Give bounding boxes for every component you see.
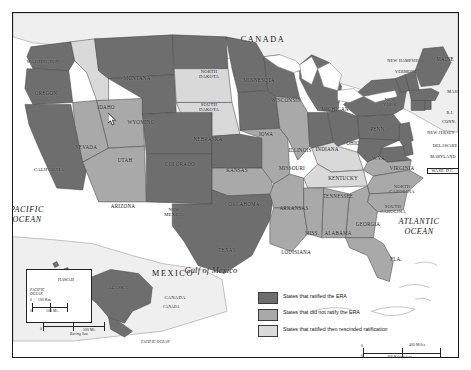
legend-item-not-ratified[interactable]: States that did not ratify the ERA — [258, 309, 408, 321]
state-ia[interactable] — [238, 91, 280, 131]
map-legend: States that ratified the ERAStates that … — [258, 292, 408, 342]
state-ks[interactable] — [212, 134, 262, 168]
state-mt[interactable] — [95, 35, 175, 79]
state-al[interactable] — [322, 188, 350, 238]
state-wa[interactable] — [27, 42, 75, 71]
state-sd[interactable] — [174, 69, 232, 103]
hawaii-scale-mi: 100 Mi. — [46, 310, 59, 314]
mouse-cursor — [108, 113, 117, 126]
legend-swatch-ratified — [258, 292, 278, 304]
hawaii-scale-bar: 0 0 100 Km. 100 Mi. — [30, 300, 86, 320]
state-or[interactable] — [25, 69, 73, 105]
scale-miles-label: 400 Miles — [409, 344, 425, 348]
state-co[interactable] — [142, 112, 212, 154]
legend-item-rescinded[interactable]: States that ratified then rescinded rati… — [258, 325, 408, 337]
legend-swatch-not-ratified — [258, 309, 278, 321]
hawaii-inset: HAWAII PACIFIC OCEAN 0 0 100 Km. 100 Mi. — [26, 269, 92, 323]
legend-label-not-ratified: States that did not ratify the ERA — [283, 309, 360, 316]
hawaii-pacific-ocean-label: PACIFIC OCEAN — [30, 289, 45, 296]
era-ratification-map: WASHINGTONOREGONIDAHOMONTANANORTH DAKOTA… — [0, 0, 471, 370]
legend-label-ratified: States that ratified the ERA — [283, 292, 347, 299]
main-scale-bar: 0 0 400 Miles 400 Kilometers — [361, 345, 453, 358]
legend-item-ratified[interactable]: States that ratified the ERA — [258, 292, 408, 304]
alaska-scale-mi: 500 Mi. — [83, 329, 96, 333]
state-nd[interactable] — [172, 35, 228, 69]
hawaii-label: HAWAII — [58, 278, 74, 282]
map-frame: WASHINGTONOREGONIDAHOMONTANANORTH DAKOTA… — [12, 12, 459, 358]
state-nm[interactable] — [146, 154, 212, 204]
state-ri[interactable] — [425, 100, 431, 109]
state-ok[interactable] — [212, 168, 274, 196]
state-ct[interactable] — [411, 100, 425, 110]
scale-kilometers-label: 400 Kilometers — [387, 356, 412, 358]
alaska-scale-zero-mi: 0 — [40, 328, 42, 332]
legend-swatch-rescinded — [258, 325, 278, 337]
state-ma[interactable] — [409, 89, 439, 101]
legend-label-rescinded: States that ratified then rescinded rati… — [283, 325, 388, 332]
